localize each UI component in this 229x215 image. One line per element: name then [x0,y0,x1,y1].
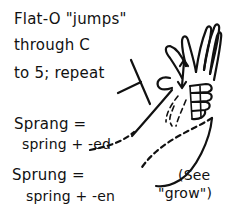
see-note-line-1: (See [178,168,210,182]
sprung-term: Sprung = [12,168,85,183]
dashed-motion-path-icon [90,96,212,170]
pointer-line-icon [118,60,150,104]
sprang-term: Sprang = [14,117,86,132]
instruction-line-3: to 5; repeat [14,66,104,81]
instruction-line-2: through C [14,38,90,53]
illustration-canvas: Flat-O "jumps" through C to 5; repeat Sp… [0,0,229,215]
sprang-formula: spring + -ed [22,137,111,151]
instruction-line-1: Flat-O "jumps" [14,12,127,27]
see-note-line-2: "grow") [158,186,212,200]
sprung-formula: spring + -en [26,189,115,203]
open-hand-icon [166,24,221,80]
